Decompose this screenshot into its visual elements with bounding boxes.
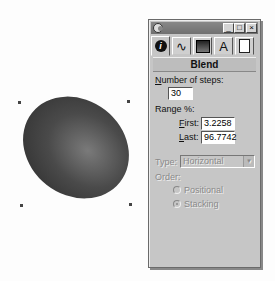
positional-label: Positional: [184, 185, 223, 195]
type-label: Type:: [155, 157, 177, 167]
stacking-radio[interactable]: [173, 200, 181, 208]
first-label: First:: [179, 118, 199, 128]
blended-ellipse[interactable]: [3, 76, 150, 220]
type-select[interactable]: Horizontal ▼: [180, 155, 255, 168]
selection-handle-top-right[interactable]: [127, 100, 130, 103]
curve-icon: ∿: [176, 39, 187, 54]
blend-panel: _ □ × i ∿ A Blend Number of steps: 30 Ra…: [148, 19, 261, 268]
panel-heading: Blend: [153, 57, 256, 72]
tab-text[interactable]: A: [214, 37, 233, 55]
type-select-value: Horizontal: [183, 156, 224, 166]
info-icon: i: [155, 40, 167, 52]
drawing-canvas[interactable]: [0, 0, 145, 281]
steps-label: Number of steps:: [155, 75, 224, 85]
minimize-button[interactable]: _: [223, 23, 234, 33]
steps-input[interactable]: 30: [168, 87, 193, 100]
maximize-button[interactable]: □: [234, 23, 245, 33]
panel-tabs: i ∿ A: [151, 36, 258, 56]
order-label: Order:: [155, 172, 181, 182]
tab-info[interactable]: i: [151, 36, 170, 56]
last-input[interactable]: 96.7742: [201, 131, 235, 144]
positional-radio[interactable]: [173, 186, 181, 194]
selection-handle-top-left[interactable]: [18, 101, 21, 104]
app-icon: [153, 23, 163, 33]
tab-page[interactable]: [235, 37, 254, 55]
tab-curve[interactable]: ∿: [172, 37, 191, 55]
stacking-label: Stacking: [184, 199, 219, 209]
fill-icon: [196, 40, 210, 53]
close-button[interactable]: ×: [246, 23, 257, 33]
tab-fill[interactable]: [193, 37, 212, 55]
last-label: Last:: [179, 132, 199, 142]
selection-handle-bottom-right[interactable]: [129, 203, 132, 206]
range-label: Range %:: [155, 104, 195, 114]
selection-handle-bottom-left[interactable]: [20, 204, 23, 207]
first-input[interactable]: 3.2258: [201, 117, 235, 130]
panel-titlebar[interactable]: _ □ ×: [151, 22, 258, 34]
chevron-down-icon[interactable]: ▼: [243, 156, 254, 167]
text-icon: A: [219, 39, 228, 54]
page-icon: [239, 39, 250, 53]
